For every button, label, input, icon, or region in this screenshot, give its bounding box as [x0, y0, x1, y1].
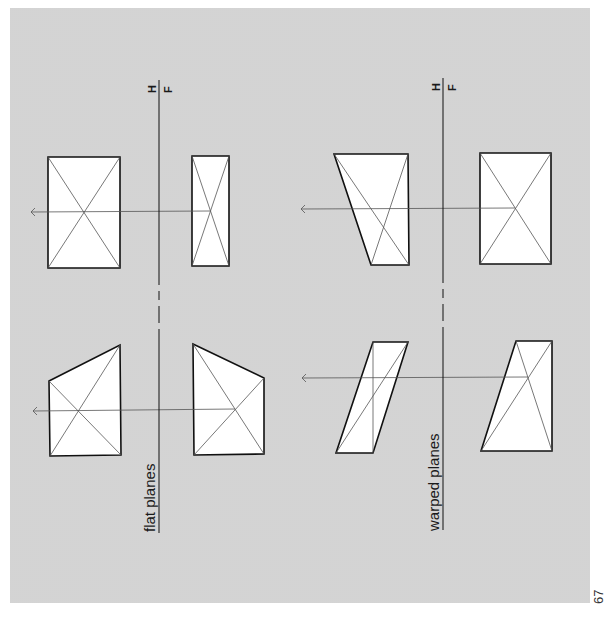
f-label-left: F: [162, 86, 174, 93]
warped-planes-caption: warped planes: [425, 433, 442, 531]
book-page: H F H F flat planes warped planes 67: [0, 0, 615, 620]
f-label-right: F: [446, 84, 458, 91]
orthographic-diagram: [0, 0, 615, 620]
h-label-left: H: [146, 85, 158, 93]
h-label-right: H: [430, 83, 442, 91]
page-number: 67: [591, 590, 606, 604]
flat-planes-caption: flat planes: [141, 464, 158, 532]
